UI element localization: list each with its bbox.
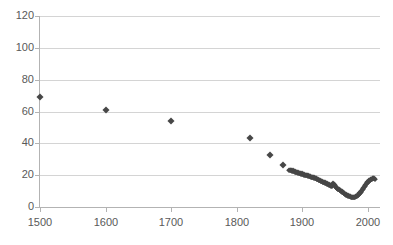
y-axis-tick-label: 40 [2, 137, 34, 148]
chart-container: 020406080100120 150016001700180019002000 [0, 0, 393, 245]
x-axis-tick-label: 1500 [18, 217, 62, 228]
x-axis-tick-label: 2000 [346, 217, 390, 228]
y-axis-labels: 020406080100120 [0, 0, 34, 245]
y-axis-tick-label: 120 [2, 10, 34, 21]
x-tick [171, 207, 172, 212]
y-axis-tick-label: 80 [2, 74, 34, 85]
x-axis-tick-label: 1700 [149, 217, 193, 228]
x-axis-tick-label: 1800 [215, 217, 259, 228]
x-axis-tick-label: 1900 [280, 217, 324, 228]
data-point [36, 94, 43, 101]
x-tick [40, 207, 41, 212]
data-point [372, 176, 377, 181]
x-tick [237, 207, 238, 212]
x-axis-line [39, 207, 380, 208]
plot-area [40, 16, 380, 207]
data-point [246, 134, 253, 141]
data-point [266, 151, 273, 158]
data-point [168, 118, 175, 125]
y-axis-tick-label: 100 [2, 42, 34, 53]
x-axis-tick-label: 1600 [84, 217, 128, 228]
y-axis-tick-label: 0 [2, 201, 34, 212]
data-point [102, 107, 109, 114]
y-axis-tick-label: 60 [2, 106, 34, 117]
x-tick [302, 207, 303, 212]
y-axis-tick-label: 20 [2, 169, 34, 180]
x-tick [368, 207, 369, 212]
x-tick [106, 207, 107, 212]
data-point [279, 162, 286, 169]
